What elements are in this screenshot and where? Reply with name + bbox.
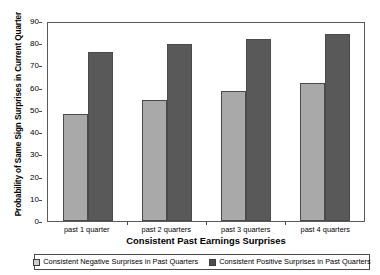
bar-pair	[206, 23, 285, 221]
y-axis-tick-mark	[39, 155, 42, 156]
bar-pair	[48, 23, 127, 221]
x-axis-tick-label: past 1 quarter	[47, 226, 127, 233]
y-axis-tick-mark	[39, 111, 42, 112]
bar-group	[285, 23, 364, 221]
bar-negative[interactable]	[300, 83, 325, 221]
bar-groups	[48, 23, 364, 221]
y-axis-tick-label: 90	[30, 18, 39, 26]
y-axis-ticks: 0102030405060708090	[18, 22, 42, 222]
legend-item[interactable]: Consistent Positive Surprises in Past Qu…	[209, 258, 371, 265]
y-axis-tick-label: 40	[30, 129, 39, 137]
y-axis-tick-mark	[39, 133, 42, 134]
legend-label: Consistent Positive Surprises in Past Qu…	[219, 258, 371, 265]
chart-legend: Consistent Negative Surprises in Past Qu…	[34, 254, 370, 270]
y-axis-tick-label: 70	[30, 62, 39, 70]
y-axis-tick-mark	[39, 66, 42, 67]
legend-swatch-positive-icon	[209, 259, 216, 266]
legend-label: Consistent Negative Surprises in Past Qu…	[43, 258, 198, 265]
bar-group	[48, 23, 127, 221]
y-axis-tick-mark	[39, 200, 42, 201]
bar-positive[interactable]	[167, 44, 192, 221]
y-axis-tick-mark	[39, 22, 42, 23]
bar-positive[interactable]	[246, 39, 271, 221]
x-axis-tick-mark	[285, 221, 286, 225]
y-axis-tick-label: 80	[30, 40, 39, 48]
y-axis-tick-label: 10	[30, 196, 39, 204]
x-axis-tick-label: past 4 quarters	[286, 226, 366, 233]
bar-positive[interactable]	[325, 34, 350, 221]
y-axis-tick-label: 60	[30, 85, 39, 93]
bar-group	[127, 23, 206, 221]
bar-group	[206, 23, 285, 221]
y-axis-tick-label: 50	[30, 107, 39, 115]
x-axis-tick-labels: past 1 quarterpast 2 quarterspast 3 quar…	[47, 226, 365, 233]
bar-pair	[127, 23, 206, 221]
y-axis-tick-mark	[39, 178, 42, 179]
y-axis-tick-mark	[39, 222, 42, 223]
x-axis-tick-mark	[206, 221, 207, 225]
y-axis-tick-label: 20	[30, 174, 39, 182]
bar-negative[interactable]	[142, 100, 167, 221]
y-axis-tick-label: 30	[30, 151, 39, 159]
bar-negative[interactable]	[221, 91, 246, 221]
legend-item[interactable]: Consistent Negative Surprises in Past Qu…	[33, 258, 198, 265]
bar-positive[interactable]	[88, 52, 113, 221]
x-axis-title: Consistent Past Earnings Surprises	[47, 236, 365, 245]
bar-pair	[285, 23, 364, 221]
legend-swatch-negative-icon	[33, 259, 40, 266]
x-axis-tick-label: past 3 quarters	[206, 226, 286, 233]
bar-negative[interactable]	[63, 114, 88, 221]
bar-chart: Probability of Same Sign Surprises in Cu…	[0, 0, 380, 275]
x-axis-tick-mark	[127, 221, 128, 225]
y-axis-tick-mark	[39, 89, 42, 90]
x-axis-tick-label: past 2 quarters	[127, 226, 207, 233]
y-axis-tick-mark	[39, 44, 42, 45]
plot-area	[47, 22, 365, 222]
